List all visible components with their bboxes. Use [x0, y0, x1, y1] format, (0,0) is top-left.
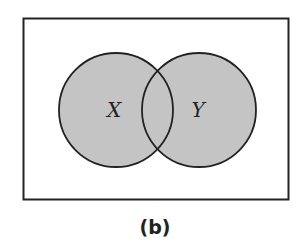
figure-caption: (b) [0, 216, 300, 238]
venn-diagram: X Y [0, 0, 300, 252]
set-x-label: X [105, 98, 122, 122]
set-y-label: Y [191, 98, 206, 122]
